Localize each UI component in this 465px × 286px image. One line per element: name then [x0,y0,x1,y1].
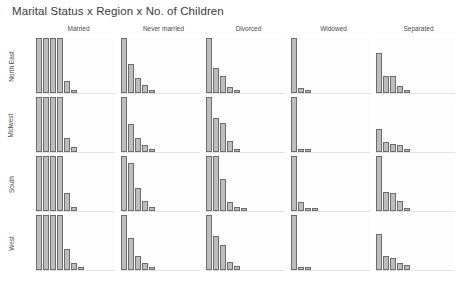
bar [376,156,382,211]
bar [227,262,233,270]
panel-baseline [376,211,455,212]
panel-midwest-widowed [291,97,370,153]
panel-baseline [36,152,115,153]
panel-baseline [206,270,285,271]
bar [128,124,134,152]
bar [376,234,382,270]
panel-baseline [36,211,115,212]
bar [121,215,127,270]
bar [241,208,247,211]
bar [291,97,297,152]
bar [78,267,84,270]
column-header-widowed: Widowed [291,25,376,32]
bar [390,76,396,93]
row-label-north-east: North East [0,60,40,72]
panel-baseline [121,93,200,94]
bar [376,129,382,152]
panel-midwest-married [36,97,115,153]
bar [43,97,49,152]
row-label-text: Midwest [8,113,15,137]
bar [227,141,233,152]
bar [71,263,77,270]
panel-baseline [36,270,115,271]
bar-series [291,38,346,93]
bar [149,207,155,211]
panel-west-divorced [206,215,285,271]
panel-north-east-separated [376,38,455,94]
bar [404,149,410,152]
bar [206,97,212,152]
bar [128,238,134,270]
panel-north-east-never-married [121,38,200,94]
bar-series [36,97,91,152]
panel-south-married [36,156,115,212]
panel-baseline [376,270,455,271]
panel-baseline [376,93,455,94]
bar [305,90,311,93]
row-label-text: North East [8,51,15,82]
bar-series [121,38,176,93]
column-header-divorced: Divorced [206,25,291,32]
bar-series [291,215,346,270]
panel-south-separated [376,156,455,212]
bar [142,85,148,93]
bar [220,76,226,93]
bar [383,76,389,93]
bar [206,215,212,270]
panel-baseline [291,152,370,153]
bar-series [206,156,261,211]
bar-series [291,97,346,152]
bar [206,38,212,93]
panel-midwest-divorced [206,97,285,153]
bar [298,267,304,270]
bar [234,149,240,152]
panel-baseline [206,211,285,212]
panel-west-widowed [291,215,370,271]
bar [36,97,42,152]
bar [149,90,155,93]
bar [376,53,382,93]
bar [43,215,49,270]
page-title: Marital Status x Region x No. of Childre… [12,5,224,17]
bar-series [206,97,261,152]
bar [291,156,297,211]
bar-series [376,215,431,270]
bar [64,81,70,93]
bar [227,202,233,211]
bar [220,245,226,270]
bar [213,118,219,152]
bar [227,87,233,93]
bar [71,90,77,93]
bar [397,263,403,270]
bar [121,156,127,211]
bar [135,78,141,93]
bar-series [206,38,261,93]
panel-south-never-married [121,156,200,212]
panel-north-east-married [36,38,115,94]
bar [36,38,42,93]
bar [404,208,410,211]
column-header-married: Married [36,25,121,32]
bar [298,149,304,152]
bar [390,258,396,270]
column-header-separated: Separated [376,25,461,32]
bar [213,236,219,270]
bar [220,123,226,152]
bar-series [376,156,431,211]
panel-north-east-widowed [291,38,370,94]
bar [121,97,127,152]
bar-series [291,156,346,211]
panel-midwest-never-married [121,97,200,153]
bar-series [121,97,176,152]
panel-baseline [206,152,285,153]
bar [64,138,70,152]
facet-bar-chart-figure: Marital Status x Region x No. of Childre… [0,0,465,286]
bar [291,38,297,93]
panel-south-widowed [291,156,370,212]
bar [43,38,49,93]
bar [149,149,155,152]
bar [234,90,240,93]
bar [50,38,56,93]
bar [128,163,134,211]
bar [142,201,148,211]
